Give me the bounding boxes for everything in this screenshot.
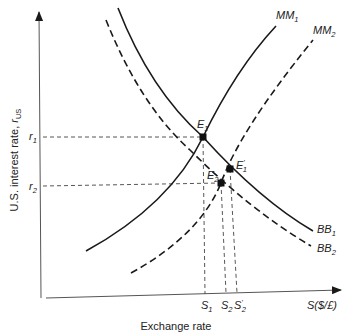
equilibrium-point-e2 (218, 180, 225, 187)
mm2-label: MM2 (313, 24, 336, 39)
r2-guide-line (43, 183, 221, 186)
y-axis (39, 12, 41, 298)
bb2-curve (106, 20, 311, 246)
equilibrium-point-e1-prime (227, 166, 234, 173)
bb1-curve (118, 8, 313, 231)
x-tick-s2-prime: S'2 (234, 298, 247, 314)
mm1-curve (86, 26, 276, 251)
x-axis-label: Exchange rate (141, 320, 212, 332)
x-axis-end-label: S($/£) (307, 299, 337, 311)
s2-guide-line (221, 183, 226, 293)
bb1-label: BB1 (317, 223, 336, 238)
y-axis-label: U.S. interest rate, rUS (8, 109, 23, 212)
x-tick-s1: S1 (201, 299, 213, 314)
y-tick-r2: r2 (29, 180, 38, 195)
e2-label: E2 (207, 169, 219, 184)
diagram-canvas: MM1 MM2 BB1 BB2 E1 E'1 E2 r1 r2 S1 S2 S'… (0, 0, 353, 333)
mm1-label: MM1 (276, 9, 299, 24)
e1-label: E1 (197, 118, 209, 133)
x-axis (46, 290, 341, 298)
x-tick-s2: S2 (221, 299, 233, 314)
equilibrium-point-e1 (200, 134, 207, 141)
s1-guide-line (203, 137, 205, 294)
bb2-label: BB2 (317, 242, 337, 257)
y-tick-r1: r1 (29, 130, 37, 145)
